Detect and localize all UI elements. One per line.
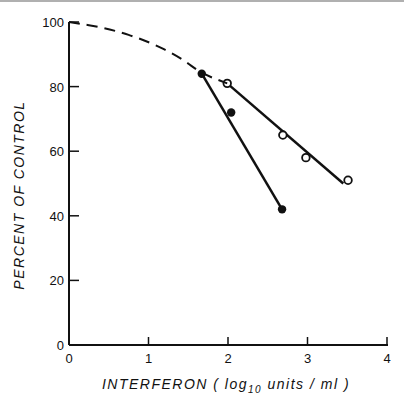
open-data-point	[302, 154, 310, 162]
filled-data-point	[278, 205, 286, 213]
y-tick-label: 40	[50, 209, 64, 224]
y-tick-label: 20	[50, 273, 64, 288]
y-tick-label: 0	[57, 338, 64, 353]
dashed-curve	[69, 22, 227, 83]
x-axis-label-subscript: 10	[248, 384, 262, 395]
x-axis-label-units: units / ml )	[262, 376, 350, 392]
open-data-point	[344, 176, 352, 184]
x-axis-label: INTERFERON ( log10 units / ml )	[102, 376, 350, 395]
x-tick-label: 2	[224, 351, 231, 366]
y-tick-label: 60	[50, 144, 64, 159]
y-tick-label: 100	[42, 15, 64, 30]
x-tick-label: 4	[383, 351, 390, 366]
x-tick-label: 3	[304, 351, 311, 366]
open-data-point	[279, 131, 287, 139]
x-tick-label: 0	[65, 351, 72, 366]
x-tick-label: 1	[145, 351, 152, 366]
axes: 01234020406080100	[42, 15, 390, 366]
x-axis-label-main: INTERFERON ( log	[102, 376, 248, 392]
plot-area	[69, 22, 352, 214]
y-tick-label: 80	[50, 80, 64, 95]
y-axis-label: PERCENT OF CONTROL	[11, 100, 27, 289]
filled-data-point	[227, 108, 235, 116]
chart: 01234020406080100 PERCENT OF CONTROL INT…	[0, 0, 404, 405]
filled-series-line	[202, 74, 282, 210]
